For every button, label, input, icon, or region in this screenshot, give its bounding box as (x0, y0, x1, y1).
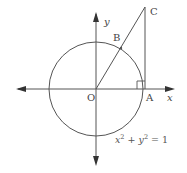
origin-label: O (87, 93, 95, 103)
equation-rhs: = 1 (148, 134, 168, 145)
x-axis-left-arrow-icon (16, 86, 26, 92)
point-a-label: A (146, 93, 153, 103)
y-axis-label: y (104, 17, 110, 27)
circle-equation: x2 + y2 = 1 (115, 134, 168, 145)
point-b (120, 47, 122, 49)
point-c-label: C (150, 7, 158, 17)
y-axis-bottom-arrow-icon (93, 156, 99, 166)
x-axis-label: x (167, 93, 173, 103)
equation-plus: + (125, 134, 139, 145)
right-angle-marker (137, 81, 145, 89)
unit-circle-diagram (0, 0, 187, 173)
y-axis-top-arrow-icon (93, 12, 99, 22)
point-b-label: B (113, 33, 120, 43)
